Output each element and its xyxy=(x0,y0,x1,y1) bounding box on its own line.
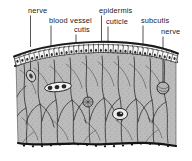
label-text: epidermis xyxy=(99,6,133,15)
epidermal-cell-nucleus xyxy=(169,56,171,59)
epidermal-cell-nucleus xyxy=(61,52,63,55)
epidermal-cell-nucleus xyxy=(154,54,156,57)
label-text: nerve xyxy=(28,6,47,15)
skin-cross-section-figure: nerve blood vessel cutis epidermis cutic… xyxy=(0,0,192,161)
epidermal-cell-nucleus xyxy=(144,52,146,55)
epidermal-cell-nucleus xyxy=(134,51,136,54)
epidermal-cell-nucleus xyxy=(100,49,102,52)
epidermal-cell-nucleus xyxy=(115,49,117,52)
epidermal-cell-nucleus xyxy=(139,51,141,54)
diagram-canvas: nerve blood vessel cutis epidermis cutic… xyxy=(0,0,192,161)
epidermal-cell-nucleus xyxy=(36,56,38,59)
epidermal-cell-nucleus xyxy=(90,49,92,52)
epidermal-cell-nucleus xyxy=(124,50,126,53)
epidermal-cell-nucleus xyxy=(105,49,107,52)
epidermal-cell-nucleus xyxy=(26,58,28,61)
label-text: blood vessel xyxy=(49,16,92,25)
epidermal-cell-nucleus xyxy=(56,52,58,55)
label-text: cuticle xyxy=(106,17,128,26)
epidermal-cell-nucleus xyxy=(66,51,68,54)
label-text: cutis xyxy=(74,25,90,34)
epidermal-cell-nucleus xyxy=(129,50,131,53)
cutis-layer xyxy=(12,50,176,148)
epidermal-cell-nucleus xyxy=(21,59,23,62)
epidermal-cell-nucleus xyxy=(46,54,48,57)
epidermal-cell-nucleus xyxy=(119,49,121,52)
epidermal-cell-nucleus xyxy=(149,53,151,56)
epidermal-cell-nucleus xyxy=(164,55,166,58)
epidermal-cell-nucleus xyxy=(41,55,43,58)
epidermal-cell-nucleus xyxy=(31,57,33,60)
epidermal-cell-nucleus xyxy=(75,50,77,53)
epidermal-cell-nucleus xyxy=(173,57,175,60)
sensory-corpuscle xyxy=(113,108,128,119)
gland-body xyxy=(83,97,93,107)
epidermal-cell-nucleus xyxy=(110,49,112,52)
epidermal-cell-nucleus xyxy=(159,54,161,57)
epidermal-cell-nucleus xyxy=(95,49,97,52)
label-nerve-left: nerve xyxy=(28,6,47,47)
label-text: nerve xyxy=(161,27,180,36)
epidermal-cell-nucleus xyxy=(16,60,18,63)
epidermal-cell-nucleus xyxy=(80,49,82,52)
epidermal-cell-nucleus xyxy=(85,49,87,52)
label-epidermis: epidermis xyxy=(99,6,133,47)
label-text: subcutis xyxy=(141,16,169,25)
epidermal-cell-nucleus xyxy=(70,50,72,53)
epidermal-cell-nucleus xyxy=(51,53,53,56)
